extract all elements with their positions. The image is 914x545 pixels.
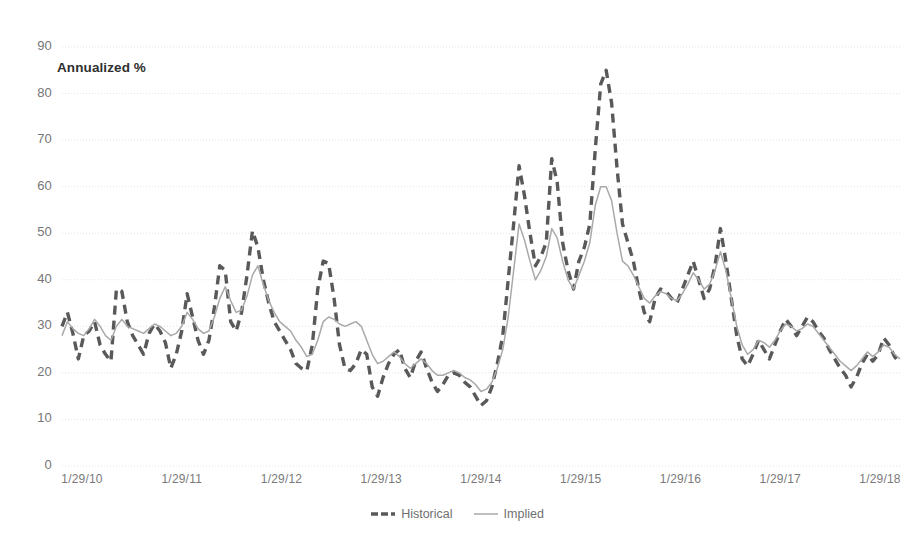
legend-item-implied[interactable]: Implied (473, 507, 544, 521)
series-line-historical (62, 70, 900, 405)
legend-swatch-implied-icon (473, 509, 499, 519)
y-axis-tick-40: 40 (18, 271, 52, 286)
y-axis-tick-0: 0 (18, 457, 52, 472)
x-axis-tick-2: 1/29/12 (237, 472, 327, 486)
series-line-implied (62, 187, 900, 392)
x-axis-tick-6: 1/29/16 (636, 472, 726, 486)
x-axis-tick-7: 1/29/17 (735, 472, 825, 486)
x-axis-tick-5: 1/29/15 (536, 472, 626, 486)
x-axis-tick-1: 1/29/11 (137, 472, 227, 486)
chart-container: Annualized % 0102030405060708090 1/29/10… (0, 0, 914, 545)
legend-item-historical[interactable]: Historical (370, 507, 452, 521)
y-axis-tick-80: 80 (18, 85, 52, 100)
x-axis-tick-3: 1/29/13 (336, 472, 426, 486)
y-axis-tick-90: 90 (18, 38, 52, 53)
legend-swatch-historical-icon (370, 509, 396, 519)
legend-label-historical: Historical (401, 507, 452, 521)
y-axis-tick-30: 30 (18, 317, 52, 332)
x-axis-tick-0: 1/29/10 (37, 472, 127, 486)
chart-legend: Historical Implied (0, 503, 914, 525)
y-axis-tick-60: 60 (18, 178, 52, 193)
legend-label-implied: Implied (504, 507, 544, 521)
y-axis-tick-50: 50 (18, 224, 52, 239)
y-axis-tick-10: 10 (18, 410, 52, 425)
y-axis-tick-20: 20 (18, 364, 52, 379)
chart-plot-area (0, 0, 914, 545)
x-axis-tick-4: 1/29/14 (436, 472, 526, 486)
y-axis-tick-70: 70 (18, 131, 52, 146)
chart-annotation: Annualized % (57, 60, 146, 75)
x-axis-tick-8: 1/29/18 (835, 472, 914, 486)
